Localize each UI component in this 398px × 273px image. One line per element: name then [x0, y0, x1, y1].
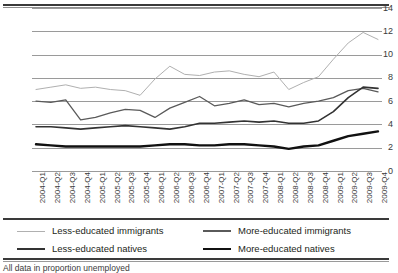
- series-line: [36, 131, 378, 148]
- legend-label: More-educated immigrants: [238, 226, 351, 236]
- legend-item[interactable]: More-educated natives: [203, 244, 335, 254]
- y-tick-label: 14: [367, 4, 393, 13]
- top-rule: [3, 4, 389, 6]
- series-lines: [32, 8, 382, 171]
- y-tick-label: 12: [367, 27, 393, 36]
- footnote: All data in proportion unemployed: [3, 264, 130, 273]
- chart-legend: Less-educated immigrantsMore-educated im…: [3, 222, 389, 256]
- legend-line-swatch: [203, 248, 231, 250]
- plot-area: [32, 8, 382, 171]
- x-axis-labels: 2004-Q12004-Q22004-Q32004-Q42005-Q12005-…: [32, 172, 382, 216]
- legend-item[interactable]: Less-educated natives: [17, 244, 147, 254]
- legend-item[interactable]: Less-educated immigrants: [17, 226, 163, 236]
- legend-line-swatch: [203, 230, 231, 231]
- legend-item[interactable]: More-educated immigrants: [203, 226, 351, 236]
- legend-label: Less-educated natives: [52, 244, 147, 254]
- x-tick-label: 2009-Q4: [381, 172, 398, 216]
- footnote-rule: [3, 261, 389, 262]
- y-tick-label: 2: [367, 143, 393, 152]
- legend-bottom-rule: [3, 258, 389, 260]
- legend-top-rule: [3, 218, 389, 220]
- legend-line-swatch: [17, 248, 45, 250]
- series-line: [36, 87, 378, 129]
- legend-label: Less-educated immigrants: [52, 226, 163, 236]
- y-tick-label: 10: [367, 50, 393, 59]
- legend-label: More-educated natives: [238, 244, 335, 254]
- y-tick-label: 4: [367, 120, 393, 129]
- y-tick-label: 6: [367, 97, 393, 106]
- y-tick-label: 8: [367, 73, 393, 82]
- series-line: [36, 32, 378, 95]
- legend-line-swatch: [17, 231, 45, 232]
